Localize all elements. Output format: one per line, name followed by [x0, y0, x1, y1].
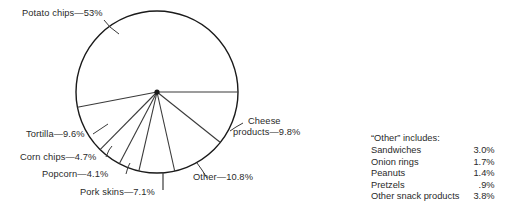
- slice-label-pork-skins: Pork skins—7.1%: [80, 187, 155, 198]
- other-includes-heading: “Other” includes:: [371, 133, 495, 145]
- other-item-value: .9%: [473, 180, 494, 192]
- pie-divider-cornchips-popcorn: [119, 92, 157, 164]
- other-item-name: Other snack products: [371, 191, 473, 203]
- table-row: Other snack products 3.8%: [371, 191, 495, 203]
- table-row: Onion rings 1.7%: [371, 157, 495, 169]
- other-item-value: 3.0%: [473, 145, 494, 157]
- other-item-name: Sandwiches: [371, 145, 473, 157]
- slice-label-popcorn: Popcorn—4.1%: [42, 169, 108, 180]
- other-item-name: Peanuts: [371, 168, 473, 180]
- slice-label-other: Other—10.8%: [193, 172, 253, 183]
- slice-label-corn-chips: Corn chips—4.7%: [20, 152, 96, 163]
- other-item-value: 3.8%: [473, 191, 494, 203]
- other-item-name: Pretzels: [371, 180, 473, 192]
- slice-label-potato-chips: Potato chips—53%: [22, 8, 103, 19]
- slice-label-cheese-products-line1: Cheese: [248, 116, 281, 127]
- slice-label-tortilla: Tortilla—9.6%: [26, 129, 85, 140]
- pie-divider-popcorn-porkskins: [139, 92, 157, 171]
- other-includes-table: Sandwiches 3.0% Onion rings 1.7% Peanuts…: [371, 145, 495, 203]
- pie-divider-potato-tortilla: [77, 92, 157, 107]
- table-row: Sandwiches 3.0%: [371, 145, 495, 157]
- pie-center-dot: [154, 89, 159, 94]
- other-item-value: 1.4%: [473, 168, 494, 180]
- other-includes-panel: “Other” includes: Sandwiches 3.0% Onion …: [371, 133, 495, 203]
- table-row: Peanuts 1.4%: [371, 168, 495, 180]
- leader-line-corn-chips: [106, 146, 112, 157]
- pie-chart-figure: Potato chips—53% Tortilla—9.6% Corn chip…: [0, 0, 505, 218]
- other-item-value: 1.7%: [473, 157, 494, 169]
- leader-line-tortilla: [93, 124, 108, 134]
- slice-label-cheese-products-line2: products—9.8%: [233, 127, 300, 138]
- table-row: Pretzels .9%: [371, 180, 495, 192]
- pie-divider-tortilla-cornchips: [100, 92, 157, 150]
- other-item-name: Onion rings: [371, 157, 473, 169]
